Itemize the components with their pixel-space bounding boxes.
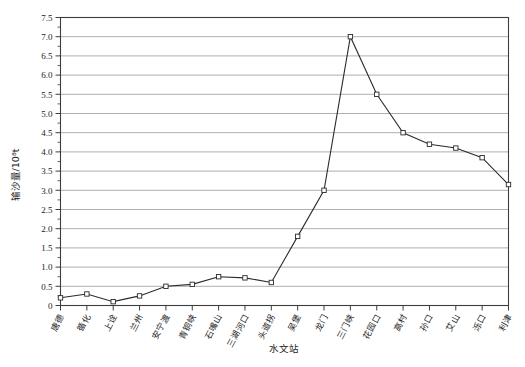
y-tick-label: 6.5 xyxy=(41,51,53,61)
x-axis-title: 水文站 xyxy=(269,343,299,354)
plot-background xyxy=(0,0,525,367)
y-tick-label: 5.5 xyxy=(41,90,53,100)
data-point-marker xyxy=(111,299,115,303)
y-tick-label: 7.0 xyxy=(41,32,53,42)
y-tick-label: 6.0 xyxy=(41,70,53,80)
y-tick-label: 4.5 xyxy=(41,128,53,138)
y-tick-label: 2.0 xyxy=(41,224,53,234)
y-tick-label: 3.5 xyxy=(41,166,53,176)
y-tick-label: 4.0 xyxy=(41,147,53,157)
y-tick-label: 0 xyxy=(48,301,53,311)
y-tick-label: 1.5 xyxy=(41,243,53,253)
sediment-load-line-chart: 00.51.01.52.02.53.03.54.04.55.05.56.06.5… xyxy=(0,0,525,367)
data-point-marker xyxy=(375,92,379,96)
y-tick-label: 2.5 xyxy=(41,205,53,215)
y-tick-label: 0.5 xyxy=(41,282,53,292)
data-point-marker xyxy=(348,35,352,39)
data-point-marker xyxy=(85,292,89,296)
data-point-marker xyxy=(137,294,141,298)
y-tick-label: 7.5 xyxy=(41,13,53,23)
data-point-marker xyxy=(164,284,168,288)
y-tick-label: 3.0 xyxy=(41,186,53,196)
y-tick-label: 1.0 xyxy=(41,262,53,272)
data-point-marker xyxy=(454,146,458,150)
data-point-marker xyxy=(401,131,405,135)
data-point-marker xyxy=(190,282,194,286)
data-point-marker xyxy=(322,188,326,192)
y-axis-title: 输沙量/10⁸t xyxy=(10,148,21,201)
y-tick-label: 5.0 xyxy=(41,109,53,119)
data-point-marker xyxy=(427,142,431,146)
data-point-marker xyxy=(295,234,299,238)
data-point-marker xyxy=(58,296,62,300)
data-point-marker xyxy=(480,155,484,159)
data-point-marker xyxy=(506,182,510,186)
data-point-marker xyxy=(243,276,247,280)
chart-container: 00.51.01.52.02.53.03.54.04.55.05.56.06.5… xyxy=(0,0,525,367)
data-point-marker xyxy=(269,280,273,284)
data-point-marker xyxy=(216,275,220,279)
